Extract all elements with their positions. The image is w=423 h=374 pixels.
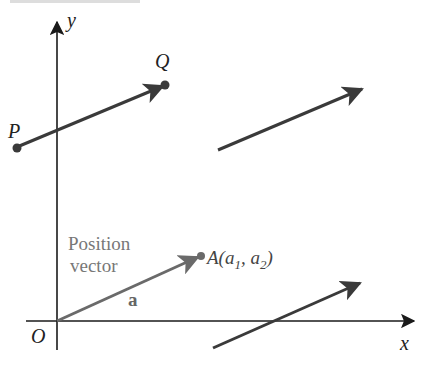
position-caption-line2: vector (70, 255, 118, 276)
y-axis-label: y (65, 9, 76, 32)
x-axis-label: x (399, 332, 409, 354)
vector-equivalent-lower (213, 283, 360, 348)
point-q (161, 81, 170, 90)
caption-fragment (10, 0, 140, 3)
point-a (197, 252, 205, 260)
point-p-label: P (7, 120, 20, 142)
diagram-svg: y x O P Q A(a1, a2) Position vector a (0, 0, 423, 374)
point-p (13, 144, 22, 153)
vector-diagram: y x O P Q A(a1, a2) Position vector a (0, 0, 423, 374)
position-vector-name: a (128, 289, 138, 310)
point-a-label: A(a1, a2) (205, 247, 273, 272)
vector-pq (17, 86, 163, 147)
point-q-label: Q (155, 50, 170, 72)
vector-equivalent-upper (218, 89, 362, 150)
position-caption-line1: Position (68, 233, 131, 254)
origin-label: O (31, 325, 45, 347)
